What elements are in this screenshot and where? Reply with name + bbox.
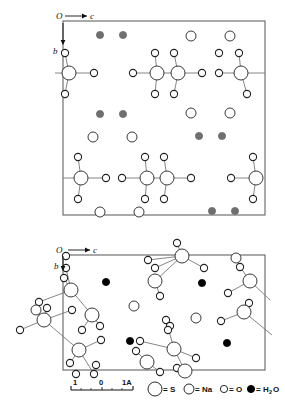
atom-h2o bbox=[119, 31, 126, 38]
atom-h2o bbox=[198, 279, 205, 286]
atom-na bbox=[225, 31, 235, 41]
atom-o bbox=[102, 174, 109, 181]
legend-label-o: O bbox=[236, 385, 242, 394]
atom-o bbox=[144, 256, 151, 263]
atom-o bbox=[43, 304, 50, 311]
atom-h2o bbox=[96, 31, 103, 38]
atom-s bbox=[243, 274, 257, 288]
atom-o bbox=[187, 174, 194, 181]
atom-s bbox=[249, 171, 263, 185]
atom-o bbox=[74, 195, 81, 202]
atom-o bbox=[68, 306, 75, 313]
atom-o bbox=[236, 263, 243, 270]
legend-swatch-o bbox=[220, 385, 227, 392]
b-axis-label-bottom: b bbox=[54, 261, 59, 271]
legend-swatch-na bbox=[184, 384, 194, 394]
atom-o bbox=[170, 90, 177, 97]
atom-s bbox=[37, 313, 51, 327]
legend-swatch-s bbox=[148, 382, 162, 396]
scale-tick-left: 1 bbox=[73, 378, 77, 387]
atom-o bbox=[156, 292, 163, 299]
atom-s bbox=[62, 66, 76, 80]
atom-o bbox=[249, 153, 256, 160]
atom-na bbox=[129, 301, 139, 311]
atom-o bbox=[192, 354, 199, 361]
atom-na bbox=[225, 108, 235, 118]
atom-o bbox=[156, 368, 163, 375]
atom-o bbox=[61, 90, 68, 97]
atom-na bbox=[134, 207, 144, 217]
atom-o bbox=[224, 289, 231, 296]
atom-o bbox=[92, 361, 99, 368]
legend-label-na: Na bbox=[202, 385, 213, 394]
legend-eq-na: = bbox=[195, 385, 200, 394]
scale-tick-right: 1A bbox=[122, 378, 132, 387]
atom-o bbox=[96, 322, 103, 329]
atom-o bbox=[141, 153, 148, 160]
atom-s bbox=[160, 171, 174, 185]
atom-h2o bbox=[223, 339, 230, 346]
atom-o bbox=[198, 69, 205, 76]
atom-o bbox=[78, 326, 85, 333]
atom-o bbox=[90, 69, 97, 76]
atom-na bbox=[231, 253, 241, 263]
atom-s bbox=[140, 171, 154, 185]
atom-o bbox=[132, 347, 139, 354]
atom-s bbox=[74, 171, 88, 185]
atom-h2o bbox=[208, 207, 215, 214]
atom-h2o bbox=[96, 110, 103, 117]
c-axis-label-bottom: c bbox=[93, 245, 97, 255]
panel-bottom: O c b bbox=[16, 239, 272, 378]
atom-o bbox=[141, 195, 148, 202]
atom-o bbox=[72, 370, 79, 377]
c-axis-label-top: c bbox=[90, 11, 94, 21]
atom-o bbox=[61, 49, 68, 56]
atom-na bbox=[186, 108, 196, 118]
atom-o bbox=[200, 264, 207, 271]
atom-s bbox=[140, 355, 154, 369]
atom-o bbox=[90, 370, 97, 377]
atom-h2o bbox=[126, 337, 133, 344]
atom-s bbox=[175, 249, 189, 263]
legend-label-h2o-o: O bbox=[273, 385, 279, 394]
atom-h2o bbox=[102, 278, 109, 285]
atom-o bbox=[215, 69, 222, 76]
atom-o bbox=[129, 69, 136, 76]
atom-o bbox=[235, 49, 242, 56]
atom-na bbox=[88, 132, 98, 142]
atom-o bbox=[66, 359, 73, 366]
legend-eq-h2o: = bbox=[256, 385, 261, 394]
atom-o bbox=[227, 174, 234, 181]
atom-o bbox=[164, 326, 171, 333]
legend-label-h2o-sub: 2 bbox=[269, 389, 272, 395]
atom-o bbox=[151, 90, 158, 97]
atom-na bbox=[186, 31, 196, 41]
atom-na bbox=[95, 207, 105, 217]
atom-o bbox=[16, 326, 23, 333]
atom-s bbox=[171, 66, 185, 80]
atom-o bbox=[35, 298, 42, 305]
atom-o bbox=[151, 49, 158, 56]
atom-s bbox=[234, 66, 248, 80]
origin-label-bottom: O bbox=[56, 245, 63, 255]
atom-h2o bbox=[195, 132, 202, 139]
atom-o bbox=[249, 195, 256, 202]
legend-swatch-h2o bbox=[247, 385, 254, 392]
unit-cell-frame-top bbox=[63, 21, 265, 215]
legend-eq-o: = bbox=[229, 385, 234, 394]
scale-tick-middle: 0 bbox=[99, 378, 103, 387]
legend-eq-s: = bbox=[163, 385, 168, 394]
atom-s bbox=[167, 342, 181, 356]
c-axis-arrowhead-bottom bbox=[85, 248, 90, 253]
atom-na bbox=[31, 305, 41, 315]
atom-o bbox=[173, 239, 180, 246]
panel-top: O c b bbox=[53, 11, 265, 217]
b-axis-label-top: b bbox=[53, 46, 58, 56]
atom-o bbox=[60, 274, 67, 281]
c-axis-arrowhead-top bbox=[82, 14, 87, 19]
atom-o bbox=[62, 252, 69, 259]
atom-h2o bbox=[119, 110, 126, 117]
atom-na bbox=[127, 132, 137, 142]
atom-o bbox=[243, 90, 250, 97]
atom-s bbox=[72, 343, 86, 357]
